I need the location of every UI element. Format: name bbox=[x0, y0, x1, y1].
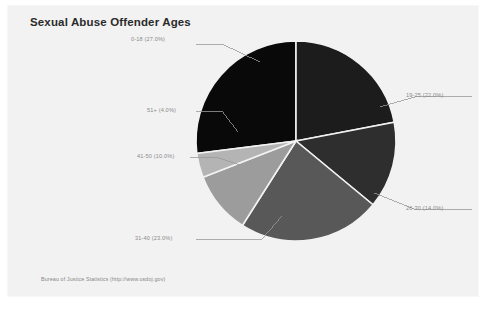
pie-label-0-18: 0-18 (27.0%) bbox=[131, 36, 165, 42]
pie-slice-0-18 bbox=[196, 41, 296, 154]
pie-label-31-40: 31-40 (23.0%) bbox=[135, 235, 172, 241]
pie-label-19-25: 19-25 (22.0%) bbox=[406, 92, 443, 98]
chart-frame: Sexual Abuse Offender Ages 0-18 (27.0%) … bbox=[0, 0, 500, 312]
pie-chart-plot bbox=[0, 0, 500, 312]
pie-label-26-30: 26-30 (14.0%) bbox=[406, 205, 443, 211]
pie-label-41-50: 41-50 (10.0%) bbox=[137, 153, 174, 159]
pie-label-51-plus: 51+ (4.0%) bbox=[147, 107, 176, 113]
source-attribution: Bureau of Justice Statistics (http://www… bbox=[41, 276, 165, 282]
